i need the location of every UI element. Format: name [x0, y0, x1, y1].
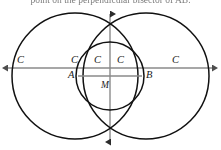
label-c-far-right: C: [172, 55, 179, 66]
label-point-b: B: [146, 70, 152, 81]
label-c-inner-left: C: [71, 55, 78, 66]
label-c-far-left: C: [17, 55, 24, 66]
label-c-center-right: C: [117, 55, 124, 66]
figure-page: point on the perpendicular bisector of A…: [0, 0, 221, 150]
label-point-a: A: [68, 70, 74, 81]
label-c-center-left: C: [94, 55, 101, 66]
geometry-diagram: [0, 0, 221, 150]
label-point-m: M: [101, 80, 109, 91]
